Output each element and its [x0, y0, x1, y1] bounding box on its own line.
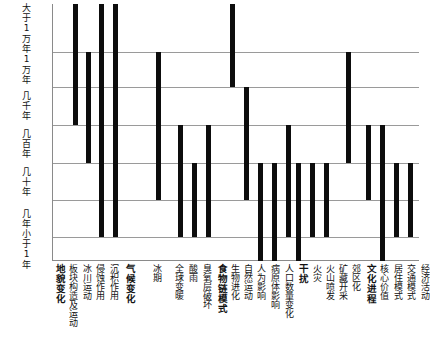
x-tick-label: 核心价值: [380, 264, 389, 300]
y-tick-label: 几百年: [0, 125, 52, 163]
gridline: [53, 200, 419, 201]
bar: [113, 4, 118, 237]
bar: [272, 163, 277, 261]
x-axis-group-label: 气候变化: [126, 264, 136, 304]
x-tick-label: 郊区化: [352, 264, 361, 291]
plot-area: [52, 4, 419, 261]
gridline: [53, 52, 419, 53]
x-axis-group-label: 干扰: [299, 264, 309, 284]
x-tick-label: 沉积作用: [109, 264, 118, 300]
x-tick-label: 经济活动: [420, 264, 429, 300]
bar: [408, 163, 413, 237]
x-tick-label: 冰期: [152, 264, 161, 282]
x-tick-label: 病原体影响: [270, 264, 279, 309]
x-tick-label: 酸雨: [189, 264, 198, 282]
bar: [310, 163, 315, 237]
x-axis-group-label: 食物链模式: [217, 264, 227, 314]
bar: [156, 52, 161, 200]
bar: [258, 163, 263, 261]
y-tick-label: 大于1万年: [0, 4, 52, 52]
bar: [73, 4, 78, 125]
bar: [206, 125, 211, 237]
gridline: [53, 163, 419, 164]
x-tick-label: 交通模式: [406, 264, 415, 300]
x-axis: 地貌变化板块构造及运动冰川运动侵蚀作用沉积作用气候变化冰期全球变暖酸雨臭氧层破坏…: [52, 264, 419, 350]
bar: [99, 4, 104, 237]
bar: [286, 125, 291, 237]
x-tick-label: 自然运动: [244, 264, 253, 300]
x-tick-label: 侵蚀作用: [95, 264, 104, 300]
bar: [366, 125, 371, 200]
y-tick-label: 几千年: [0, 87, 52, 125]
y-axis: 大于1万年1万年几千年几百年几十年几年小于1年: [0, 0, 52, 262]
x-tick-label: 火山喷发: [325, 264, 334, 300]
gridline: [53, 125, 419, 126]
x-tick-label: 全球变暖: [175, 264, 184, 300]
x-tick-label: 冰川运动: [82, 264, 91, 300]
gridline: [53, 87, 419, 88]
x-tick-label: 生物进化: [231, 264, 240, 300]
bar: [380, 125, 385, 261]
y-tick-label: 几十年: [0, 163, 52, 200]
bar: [178, 125, 183, 237]
x-tick-label: 臭氧层破坏: [203, 264, 212, 309]
bar: [86, 52, 91, 163]
bar: [230, 4, 235, 87]
x-axis-group-label: 地貌变化: [55, 264, 65, 304]
x-tick-label: 矿藏开采: [339, 264, 348, 300]
bar: [324, 163, 329, 237]
x-tick-label: 板块构造及运动: [69, 264, 78, 327]
x-tick-label: 人口数量变化: [284, 264, 293, 318]
x-tick-label: 火灾: [312, 264, 321, 282]
bar: [346, 52, 351, 163]
bar: [296, 163, 301, 261]
x-axis-group-label: 文化进程: [366, 264, 376, 304]
x-tick-label: 居住模式: [393, 264, 402, 300]
bar: [192, 163, 197, 237]
y-tick-label: 小于1年: [0, 237, 52, 261]
bar: [244, 87, 249, 200]
y-tick-label: 1万年: [0, 52, 52, 87]
gridline: [53, 237, 419, 238]
x-tick-label: 人为影响: [257, 264, 266, 300]
bar: [394, 163, 399, 237]
